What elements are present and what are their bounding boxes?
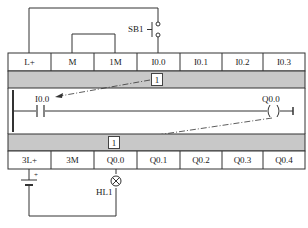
battery-icon	[21, 180, 37, 185]
terminal-q0-4: Q0.4	[263, 151, 305, 169]
output-image-bit: 1	[108, 136, 120, 149]
no-contact-icon	[37, 105, 44, 117]
battery-plus-label: +	[34, 172, 38, 179]
terminal-q0-1: Q0.1	[137, 151, 180, 169]
signal-flow-arrows	[60, 80, 272, 139]
terminal-3l-plus: 3L+	[8, 151, 51, 169]
terminal-i0-1: I0.1	[180, 53, 222, 71]
pushbutton-sb1-icon	[147, 22, 160, 37]
terminal-q0-2: Q0.2	[180, 151, 222, 169]
input-image-bit: 1	[151, 73, 163, 86]
terminal-q0-0: Q0.0	[94, 151, 137, 169]
wiring-diagram	[0, 0, 308, 228]
coil-label: Q0.0	[262, 95, 280, 104]
terminal-l-plus: L+	[8, 53, 51, 71]
terminal-i0-0: I0.0	[137, 53, 180, 71]
ladder-program-area	[8, 88, 305, 134]
lamp-label: HL1	[96, 188, 113, 197]
lamp-icon	[111, 176, 121, 186]
switch-label: SB1	[128, 25, 144, 34]
terminal-i0-2: I0.2	[222, 53, 263, 71]
terminal-1m: 1M	[94, 53, 137, 71]
output-coil-icon	[268, 105, 279, 117]
terminal-3m: 3M	[51, 151, 94, 169]
contact-label: I0.0	[35, 95, 49, 104]
terminal-m: M	[51, 53, 94, 71]
terminal-i0-3: I0.3	[263, 53, 305, 71]
output-image-band	[8, 134, 305, 151]
terminal-q0-3: Q0.3	[222, 151, 263, 169]
